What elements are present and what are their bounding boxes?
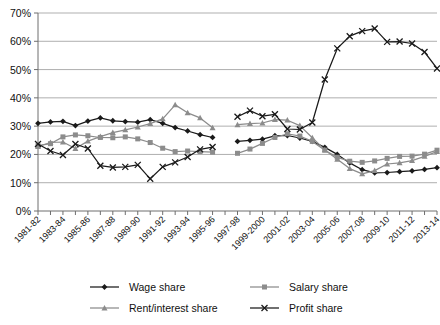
- data-point: [247, 137, 253, 143]
- legend-label: Wage share: [129, 281, 185, 293]
- data-point: [35, 120, 41, 126]
- x-axis-tick-label: 2005-06: [311, 214, 341, 244]
- data-point: [422, 167, 428, 173]
- data-point: [123, 134, 128, 139]
- x-axis-tick-label: 2013-14: [411, 214, 440, 244]
- line-chart: 0%10%20%30%40%50%60%70%1981-821983-84198…: [0, 0, 440, 325]
- data-point: [334, 45, 340, 51]
- data-point: [135, 136, 140, 141]
- data-point: [272, 135, 277, 140]
- data-point: [422, 49, 428, 55]
- data-point: [210, 135, 216, 141]
- data-point: [235, 114, 241, 120]
- x-axis-tick-label: 2001-02: [261, 214, 291, 244]
- series-profit-share: [35, 26, 440, 182]
- data-point: [397, 169, 403, 175]
- data-point: [409, 168, 415, 174]
- y-axis-tick-label: 0%: [16, 205, 31, 217]
- data-point: [185, 110, 191, 116]
- x-axis-tick-label: 1991-92: [137, 214, 167, 244]
- legend-label: Salary share: [289, 281, 348, 293]
- data-point: [260, 141, 265, 146]
- data-point: [385, 156, 390, 161]
- data-point: [60, 152, 66, 158]
- data-point: [60, 134, 65, 139]
- data-point: [397, 154, 402, 159]
- y-axis-tick-label: 60%: [10, 35, 31, 47]
- legend-marker: [262, 285, 267, 290]
- chart-container: 0%10%20%30%40%50%60%70%1981-821983-84198…: [0, 0, 440, 325]
- x-axis-tick-label: 1995-96: [187, 214, 217, 244]
- x-axis-tick-label: 1993-94: [162, 214, 192, 244]
- y-axis-tick-label: 40%: [10, 92, 31, 104]
- data-point: [160, 146, 165, 151]
- y-axis-tick-label: 10%: [10, 177, 31, 189]
- y-axis-tick-label: 50%: [10, 64, 31, 76]
- data-point: [434, 165, 440, 171]
- data-point: [247, 108, 253, 114]
- data-point: [172, 102, 178, 108]
- data-point: [384, 170, 390, 176]
- chart-legend: Wage shareSalary shareRent/interest shar…: [90, 281, 348, 314]
- series-line: [238, 29, 438, 130]
- x-axis-tick-label: 1989-90: [112, 214, 142, 244]
- x-axis-tick-label: 2007-08: [336, 214, 366, 244]
- y-axis-tick-label: 20%: [10, 148, 31, 160]
- data-point: [347, 159, 352, 164]
- data-point: [148, 140, 153, 145]
- x-axis-tick-label: 1981-82: [12, 214, 42, 244]
- data-point: [285, 131, 290, 136]
- data-point: [110, 135, 115, 140]
- data-point: [173, 149, 178, 154]
- x-axis-tick-label: 1985-86: [62, 214, 92, 244]
- data-point: [372, 158, 377, 163]
- legend-label: Profit share: [289, 302, 343, 314]
- data-point: [197, 132, 203, 138]
- data-point: [73, 132, 78, 137]
- data-point: [297, 134, 302, 139]
- data-point: [85, 145, 91, 151]
- data-point: [347, 33, 353, 39]
- data-point: [97, 115, 103, 121]
- data-point: [172, 159, 178, 165]
- data-point: [185, 149, 190, 154]
- x-axis-tick-label: 2009-10: [361, 214, 391, 244]
- x-axis-tick-label: 1987-88: [87, 214, 117, 244]
- data-point: [235, 139, 241, 145]
- x-axis-tick-label: 2003-04: [286, 214, 316, 244]
- data-point: [147, 176, 153, 182]
- data-point: [85, 118, 91, 124]
- legend-marker: [102, 284, 108, 290]
- data-point: [48, 119, 54, 125]
- data-point: [160, 164, 166, 170]
- data-point: [185, 128, 191, 134]
- data-point: [73, 123, 79, 129]
- data-point: [60, 118, 66, 124]
- data-point: [172, 125, 178, 131]
- x-axis-ticks: 1981-821983-841985-861987-881989-901991-…: [12, 211, 440, 252]
- data-point: [247, 147, 252, 152]
- series-line: [238, 120, 438, 174]
- data-point: [360, 160, 365, 165]
- data-point: [110, 118, 116, 124]
- y-axis-tick-label: 70%: [10, 7, 31, 19]
- data-point: [210, 150, 215, 155]
- x-axis-tick-label: 1983-84: [37, 214, 67, 244]
- y-axis-tick-label: 30%: [10, 120, 31, 132]
- legend-label: Rent/interest share: [129, 302, 218, 314]
- y-gridlines: 0%10%20%30%40%50%60%70%: [10, 7, 437, 217]
- data-point: [434, 65, 440, 71]
- data-point: [235, 151, 240, 156]
- data-point: [160, 120, 166, 126]
- data-point: [85, 133, 90, 138]
- data-point: [122, 119, 128, 125]
